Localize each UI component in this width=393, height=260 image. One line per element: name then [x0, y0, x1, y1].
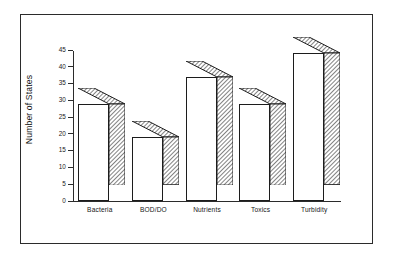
- y-axis-tick-label: 45: [26, 47, 66, 53]
- bar-front-face: [132, 137, 163, 201]
- bar-group: [132, 137, 179, 201]
- bar-front-face: [293, 53, 324, 201]
- bar-front-face: [239, 104, 270, 201]
- bar-front-face: [186, 77, 217, 201]
- x-axis-category-label: Nutrients: [193, 206, 221, 213]
- bar-group: [78, 104, 125, 201]
- bar-group: [293, 53, 340, 201]
- x-axis-category-label: Turbidity: [301, 206, 327, 213]
- x-axis-category-label: BOD/DO: [140, 206, 167, 213]
- bar-front-face: [78, 104, 109, 201]
- x-axis-category-label: Bacteria: [87, 206, 112, 213]
- y-axis-tick-label: 15: [26, 147, 66, 153]
- bar-group: [239, 104, 286, 201]
- y-axis-tick-label: 10: [26, 164, 66, 170]
- y-axis-tick-label: 35: [26, 80, 66, 86]
- chart-figure: Number of States 051015202530354045 Bact…: [0, 0, 393, 260]
- y-axis-tick-label: 25: [26, 114, 66, 120]
- bar-group: [186, 77, 233, 201]
- y-axis-tick-label: 30: [26, 97, 66, 103]
- y-axis-tick-label: 20: [26, 131, 66, 137]
- y-axis-tick-label: 5: [26, 181, 66, 187]
- plot-area: [73, 50, 341, 201]
- y-axis-tick-label: 40: [26, 64, 66, 70]
- y-axis-tick-label: 0: [26, 198, 66, 204]
- x-axis-category-label: Toxics: [251, 206, 270, 213]
